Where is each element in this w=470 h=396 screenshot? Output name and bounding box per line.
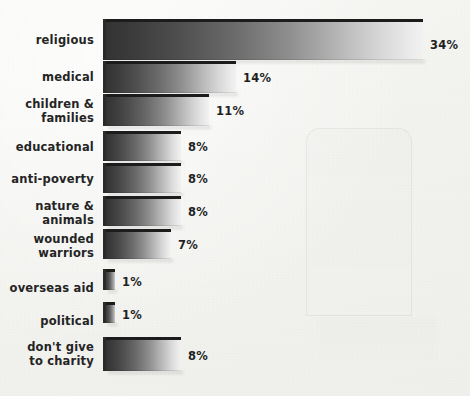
bar — [106, 166, 181, 193]
bar-fill — [106, 272, 115, 290]
bar-fill — [106, 232, 171, 259]
bar-value-label: 7% — [178, 239, 198, 252]
category-label: religious — [0, 34, 94, 48]
category-label: political — [0, 315, 94, 329]
bar-fill — [106, 340, 181, 371]
bar-value-label: 8% — [188, 141, 208, 154]
bar-value-label: 8% — [188, 350, 208, 363]
bar-chart-figure: religious34%medical14%children & familie… — [0, 0, 470, 396]
bar-value-label: 14% — [243, 72, 271, 85]
category-label: wounded warriors — [0, 233, 94, 260]
bar-fill — [106, 97, 209, 126]
bar — [106, 22, 423, 60]
bar-shadow — [108, 126, 211, 129]
bar — [106, 199, 181, 226]
plot-area: religious34%medical14%children & familie… — [0, 0, 470, 396]
bar — [106, 232, 171, 259]
bar-fill — [106, 305, 115, 323]
bar-shadow — [108, 371, 183, 374]
category-label: educational — [0, 141, 94, 155]
bar-shadow — [108, 290, 117, 293]
category-label: don't give to charity — [0, 341, 94, 368]
bar — [106, 97, 209, 126]
bar-value-label: 1% — [122, 309, 142, 322]
category-label: anti-poverty — [0, 173, 94, 187]
bar-value-label: 1% — [122, 276, 142, 289]
category-label: nature & animals — [0, 200, 94, 227]
category-label: children & families — [0, 98, 94, 125]
bar — [106, 305, 115, 323]
bar — [106, 64, 236, 93]
bar — [106, 272, 115, 290]
bar-fill — [106, 134, 181, 161]
category-label: overseas aid — [0, 282, 94, 296]
bar — [106, 340, 181, 371]
category-label: medical — [0, 71, 94, 85]
bar-value-label: 11% — [216, 105, 244, 118]
bar — [106, 134, 181, 161]
bar-value-label: 8% — [188, 173, 208, 186]
bar-fill — [106, 22, 423, 60]
bar-value-label: 34% — [430, 39, 458, 52]
bar-value-label: 8% — [188, 206, 208, 219]
bar-shadow — [108, 323, 117, 326]
bar-fill — [106, 166, 181, 193]
bar-shadow — [108, 259, 173, 262]
bar-fill — [106, 64, 236, 93]
bar-fill — [106, 199, 181, 226]
